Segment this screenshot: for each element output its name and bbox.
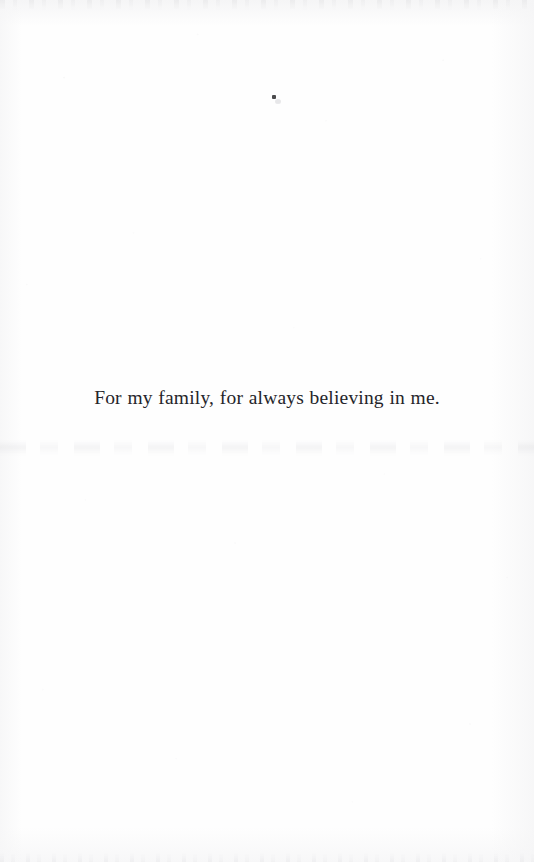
dedication-text: For my family, for always believing in m… bbox=[94, 386, 440, 410]
paper-background bbox=[0, 0, 534, 862]
book-page: For my family, for always believing in m… bbox=[0, 0, 534, 862]
scan-edge-noise-top bbox=[0, 0, 534, 10]
scan-edge-noise-bottom bbox=[0, 853, 534, 862]
paper-grain-texture bbox=[0, 0, 534, 862]
dedication-block: For my family, for always believing in m… bbox=[0, 386, 534, 410]
reverse-page-show-through bbox=[0, 440, 534, 456]
ink-speck bbox=[272, 95, 276, 99]
